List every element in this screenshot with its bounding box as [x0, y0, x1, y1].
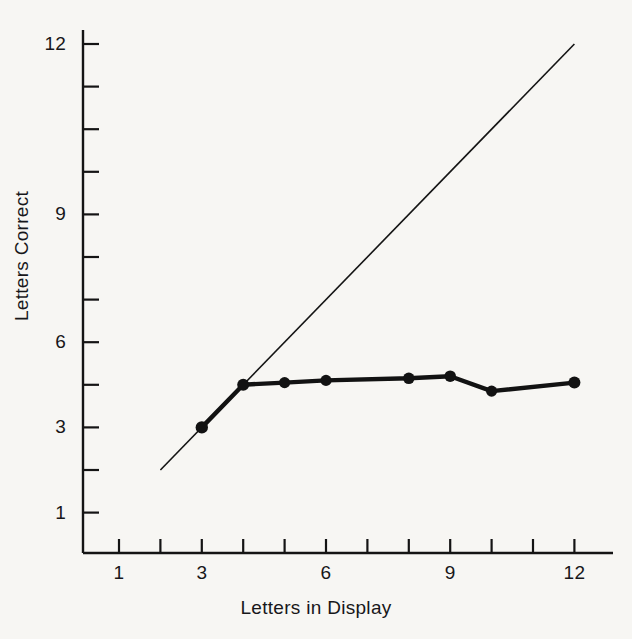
x-tick-label-1: 1 — [114, 562, 125, 584]
y-tick-label-6: 6 — [32, 331, 66, 353]
y-axis-label: Letters Correct — [11, 176, 33, 336]
x-tick-label-6: 6 — [321, 562, 332, 584]
y-tick-label-1: 1 — [32, 502, 66, 524]
y-axis-ticks — [83, 44, 99, 513]
x-tick-label-3: 3 — [196, 562, 207, 584]
x-tick-label-12: 12 — [564, 562, 586, 584]
y-tick-label-9: 9 — [32, 203, 66, 225]
chart-figure: 12 9 6 3 1 1 3 6 9 12 Letters in Display… — [0, 0, 632, 639]
y-tick-label-12: 12 — [32, 33, 66, 55]
x-axis-label: Letters in Display — [0, 597, 632, 619]
x-tick-label-9: 9 — [445, 562, 456, 584]
x-axis-ticks — [119, 539, 574, 553]
data-series-line — [202, 376, 575, 427]
y-tick-label-3: 3 — [32, 416, 66, 438]
plot-area — [0, 0, 632, 639]
